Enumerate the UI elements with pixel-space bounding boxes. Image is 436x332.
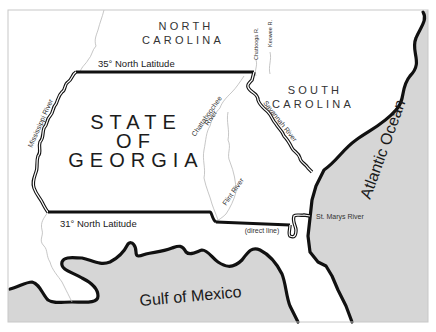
- chattooga-river-label: Chattooga R.: [253, 27, 259, 60]
- north-carolina-label-line2: CAROLINA: [142, 34, 224, 46]
- keowee-river-label: Keowee R.: [267, 20, 273, 47]
- south-carolina-label-line1: SOUTH: [288, 84, 343, 96]
- north-carolina-label-line1: NORTH: [159, 20, 214, 32]
- 35-north-latitude-label: 35° North Latitude: [98, 58, 175, 69]
- south-carolina-label-line2: CAROLINA: [272, 98, 354, 110]
- direct-line-label: (direct line): [245, 227, 280, 235]
- 31-north-latitude-label: 31° North Latitude: [60, 218, 137, 229]
- st-marys-river-label: St. Marys River: [316, 213, 365, 221]
- georgia-map: NORTH CAROLINA SOUTH CAROLINA STATE OF G…: [0, 0, 436, 332]
- georgia-label-line3: GEORGIA: [68, 149, 203, 171]
